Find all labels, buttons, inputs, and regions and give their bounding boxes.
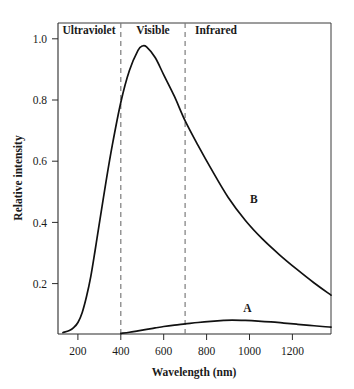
x-ticklabel-1000: 1000 [238, 345, 261, 357]
y-ticklabel-0_4: 0.4 [33, 217, 48, 229]
curve-label-a: A [243, 302, 252, 314]
curve-label-b: B [250, 193, 258, 205]
plot-frame [58, 23, 331, 334]
y-axis-title: Relative intensity [12, 135, 25, 221]
x-axis-ticks [78, 334, 293, 340]
curve-b [63, 46, 331, 333]
x-ticklabel-800: 800 [198, 345, 216, 357]
y-ticklabel-1_0: 1.0 [33, 33, 48, 45]
y-ticklabel-0_8: 0.8 [33, 94, 48, 106]
x-ticklabel-400: 400 [112, 345, 130, 357]
region-label-ultraviolet: Ultraviolet [62, 24, 115, 36]
region-labels: Ultraviolet Visible Infrared [62, 24, 237, 36]
x-ticklabel-200: 200 [69, 345, 87, 357]
y-ticklabel-0_2: 0.2 [33, 278, 48, 290]
x-axis-title: Wavelength (nm) [152, 366, 237, 379]
curve-a [121, 320, 331, 333]
y-ticklabel-0_6: 0.6 [33, 155, 48, 167]
region-label-visible: Visible [136, 24, 169, 36]
x-axis-ticklabels: 200 400 600 800 1000 1200 [69, 345, 304, 357]
chart-container: 1.0 0.8 0.6 0.4 0.2 200 400 600 800 1000… [0, 0, 354, 389]
spectrum-chart: 1.0 0.8 0.6 0.4 0.2 200 400 600 800 1000… [0, 0, 354, 389]
y-axis-ticklabels: 1.0 0.8 0.6 0.4 0.2 [33, 33, 48, 290]
x-ticklabel-600: 600 [155, 345, 173, 357]
region-label-infrared: Infrared [195, 24, 238, 36]
x-ticklabel-1200: 1200 [281, 345, 304, 357]
y-axis-ticks [52, 39, 58, 284]
